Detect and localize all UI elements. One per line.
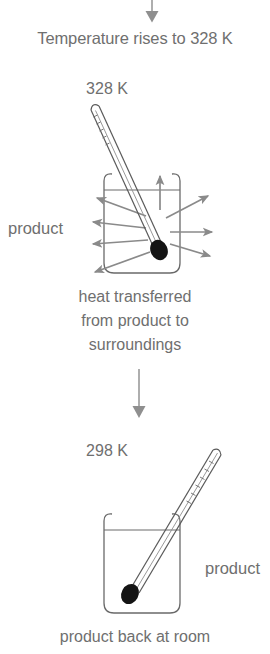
caption-product-back-at-room: product back at room	[0, 629, 270, 645]
thermometer-cool	[118, 449, 221, 607]
cool-beaker-scene	[0, 0, 270, 654]
diagram-canvas: Temperature rises to 328 K 328 K product	[0, 0, 270, 654]
beaker-cool	[104, 514, 180, 613]
